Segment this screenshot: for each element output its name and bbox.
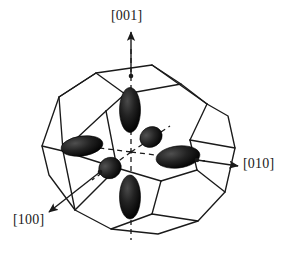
arrow-001-anchor-dot bbox=[129, 74, 134, 79]
arrow-010-anchor-dot bbox=[195, 158, 200, 163]
zone-center-dot bbox=[129, 150, 132, 153]
axis-label-010: [010] bbox=[243, 156, 274, 172]
edge-bottom-front-left bbox=[152, 181, 161, 214]
valley-down-001 bbox=[120, 175, 141, 219]
axis-label-100: [100] bbox=[13, 212, 44, 228]
axis-label-001: [001] bbox=[111, 8, 142, 24]
valley-back-010 bbox=[136, 122, 166, 151]
valley-right-010 bbox=[155, 143, 201, 170]
edge-right-inner-mid bbox=[190, 140, 235, 148]
edge-left-lower bbox=[42, 146, 63, 151]
edge-right-upper-silhouette bbox=[152, 65, 207, 104]
edge-left-vert bbox=[59, 97, 63, 151]
edge-right-to-front bbox=[161, 170, 197, 181]
arrow-100-anchor-dot bbox=[98, 170, 103, 175]
edge-bottom-front-right bbox=[152, 214, 198, 221]
valley-front-100 bbox=[95, 153, 126, 183]
face-top bbox=[96, 65, 181, 94]
edge-right-to-bottom bbox=[197, 170, 225, 192]
direction-arrows-group bbox=[49, 32, 238, 212]
valley-up-001 bbox=[120, 88, 141, 133]
edge-right-inner-up bbox=[190, 104, 207, 140]
valley-left-100 bbox=[60, 133, 104, 159]
brillouin-zone-figure: [001] [010] [100] bbox=[0, 0, 289, 262]
